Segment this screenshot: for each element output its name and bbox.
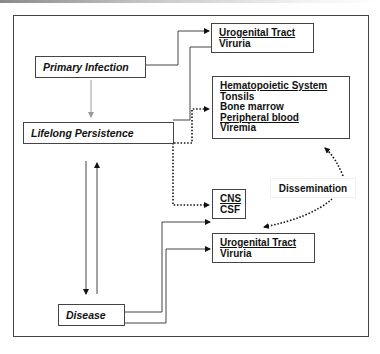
node-disease: Disease (58, 304, 125, 326)
dissemination-label: Dissemination (270, 178, 356, 198)
top-edge-bar (0, 0, 380, 3)
node-cns: CNS CSF (212, 189, 246, 219)
node-label: Lifelong Persistence (31, 127, 134, 139)
node-item: Viremia (220, 123, 349, 134)
node-title: CNS (220, 194, 245, 205)
node-title: Hematopoietic System (220, 81, 349, 92)
node-item: Bone marrow (220, 102, 349, 113)
node-title: Urogenital Tract (220, 238, 314, 249)
node-item: Viruria (219, 39, 313, 50)
dissemination-text: Dissemination (279, 183, 347, 194)
node-item: Viruria (220, 249, 314, 260)
node-title: Urogenital Tract (219, 28, 313, 39)
node-urogenital-bottom: Urogenital Tract Viruria (212, 233, 315, 263)
node-item: CSF (220, 205, 245, 216)
node-primary-infection: Primary Infection (35, 56, 146, 78)
node-urogenital-top: Urogenital Tract Viruria (211, 23, 314, 53)
node-label: Disease (66, 309, 106, 321)
node-hematopoietic-system: Hematopoietic System Tonsils Bone marrow… (212, 76, 350, 139)
node-lifelong-persistence: Lifelong Persistence (23, 122, 174, 144)
node-label: Primary Infection (43, 61, 129, 73)
